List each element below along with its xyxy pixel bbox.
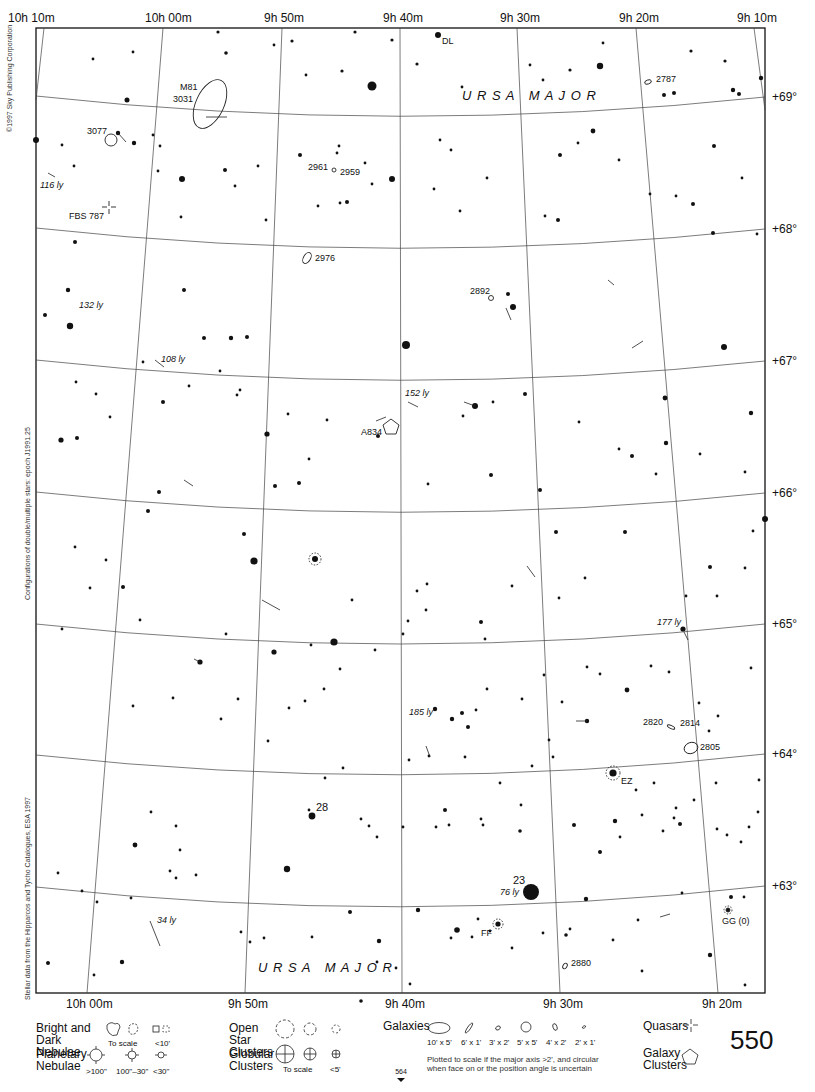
svg-text:2805: 2805 [700,742,720,752]
legend-globular-title: Globular Clusters [229,1048,279,1072]
galaxy-2820-icon [667,724,676,730]
legend-nebulae-small: <10' [155,1038,170,1050]
deep-sky-objects [102,75,732,970]
ra-label: 9h 20m [619,11,659,25]
legend-planetary-size: 100"–30" [116,1066,148,1078]
svg-text:108 ly: 108 ly [161,354,186,364]
dec-label: +68° [772,222,797,236]
svg-text:152 ly: 152 ly [405,388,430,398]
galaxy-2892-icon [489,296,494,301]
motion-vectors [48,117,688,946]
ra-label: 9h 30m [543,997,583,1011]
dec-label: +65° [772,617,797,631]
planetary-nebula-small-icon [155,1052,167,1058]
galaxy-4x2-icon [552,1023,558,1031]
svg-text:28: 28 [316,801,328,813]
dec-label: +66° [772,486,797,500]
legend-planetary-size: <30" [153,1066,169,1078]
svg-text:2787: 2787 [656,74,676,84]
svg-text:2814: 2814 [680,718,700,728]
svg-text:185 ly: 185 ly [409,707,434,717]
constellation-name: U R S A M A J O R [258,960,393,975]
legend-planetary-size: >100" [86,1066,107,1078]
globular-cluster-small-icon [332,1050,340,1058]
ra-label: 9h 40m [385,997,425,1011]
svg-text:A834: A834 [361,427,382,437]
dec-labels: +69° +68° +67° +66° +65° +64° +63° [772,90,797,893]
ra-label: 9h 30m [500,11,540,25]
dec-label: +67° [772,354,797,368]
legend-galaxy-size: 2' x 1' [575,1037,595,1049]
svg-text:2959: 2959 [340,167,360,177]
galaxy-6x1-icon [464,1022,473,1034]
svg-text:76 ly: 76 ly [500,887,520,897]
svg-text:DL: DL [442,36,454,46]
ra-label: 9h 50m [264,11,304,25]
globular-cluster-medium-icon [304,1048,316,1060]
small-nebula-icon [153,1026,159,1032]
galaxy-2787-icon [644,79,652,85]
ra-label: 9h 10m [737,11,777,25]
open-cluster-small-icon [332,1025,340,1033]
legend-galaxies-note: Plotted to scale if the major axis >2', … [427,1055,602,1073]
ra-labels-top: 10h 10m 10h 00m 9h 50m 9h 40m 9h 30m 9h … [8,11,777,25]
svg-text:2961: 2961 [308,162,328,172]
galaxy-10x5-icon [428,1023,450,1034]
svg-text:FBS 787: FBS 787 [69,211,104,221]
svg-text:2820: 2820 [643,717,663,727]
ra-label: 9h 40m [383,11,423,25]
svg-text:34 ly: 34 ly [157,915,177,925]
ra-label: 10h 00m [145,11,192,25]
page-ref-arrow-icon [397,1078,405,1082]
planetary-nebula-medium-icon [125,1048,139,1062]
galaxy-2880-icon [562,962,568,969]
galaxy-3x2-icon [495,1025,501,1031]
ra-label: 10h 00m [66,997,113,1011]
ra-labels-bottom: 10h 00m 9h 50m 9h 40m 9h 30m 9h 20m [66,997,742,1011]
svg-text:3031: 3031 [173,94,193,104]
legend-galaxy-size: 5' x 5' [517,1037,537,1049]
dark-nebula-icon [129,1024,138,1035]
svg-text:23: 23 [513,874,525,886]
legend-galaxy-size: 10' x 5' [427,1037,452,1049]
svg-text:116 ly: 116 ly [40,180,64,190]
dec-label: +69° [772,90,797,104]
galaxy-2976-icon [301,251,313,265]
quasar-fbs787-icon [102,201,116,214]
page-number: 550 [730,1025,773,1056]
legend-planetary-title: Planetary Nebulae [36,1048,91,1072]
galaxy-2961-icon [332,168,336,172]
legend-galaxy-clusters-title: Galaxy Clusters [643,1047,683,1071]
legend-globular-small: <5' [330,1064,341,1076]
svg-text:2892: 2892 [470,286,490,296]
copyright-credit: ©1997 Sky Publishing Corporation [6,25,13,132]
small-dark-nebula-icon [163,1026,169,1032]
data-credit: Stellar data from the Hipparcos and Tych… [24,797,31,1000]
svg-text:177 ly: 177 ly [657,617,682,627]
svg-text:2880: 2880 [571,958,591,968]
ra-label: 9h 20m [702,997,742,1011]
svg-text:132 ly: 132 ly [79,300,104,310]
star-chart: 10h 10m 10h 00m 9h 50m 9h 40m 9h 30m 9h … [0,0,815,1092]
open-cluster-medium-icon [304,1023,316,1035]
dec-label: +64° [772,747,797,761]
legend-galaxy-size: 4' x 2' [546,1037,566,1049]
adjacent-page-link[interactable]: 564 [393,1068,409,1075]
legend-nebulae-to-scale: To scale [108,1038,137,1050]
legend-globular-to-scale: To scale [283,1064,312,1076]
ra-label: 9h 50m [228,997,268,1011]
svg-text:FF: FF [481,928,492,938]
galaxy-cluster-a834-icon [383,419,399,434]
galaxy-5x5-icon [521,1022,531,1032]
legend-quasars-title: Quasars [643,1020,688,1032]
svg-text:GG (0): GG (0) [722,916,750,926]
legend-galaxy-size: 6' x 1' [461,1037,481,1049]
svg-text:EZ: EZ [621,776,633,786]
nebula-icon [107,1023,120,1036]
galaxy-2x1-icon [582,1025,586,1029]
svg-text:M81: M81 [180,82,198,92]
ra-label: 10h 10m [8,11,55,25]
svg-text:3077: 3077 [87,126,107,136]
dec-label: +63° [772,879,797,893]
epoch-credit: Configurations of double/multiple stars:… [24,427,31,600]
